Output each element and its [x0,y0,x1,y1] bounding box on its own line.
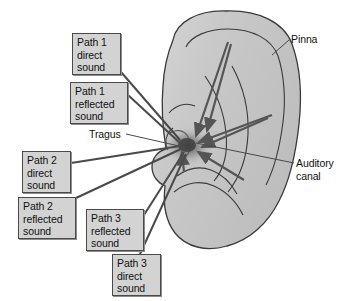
label-tragus: Tragus [89,128,121,141]
label-path-3-reflected[interactable]: Path 3 reflected sound [86,209,144,251]
figure-canvas: Path 1 direct sound Path 1 reflected sou… [0,0,343,301]
label-path-2-direct[interactable]: Path 2 direct sound [22,151,71,193]
label-path-3-direct[interactable]: Path 3 direct sound [112,254,161,296]
label-path-1-direct[interactable]: Path 1 direct sound [72,33,121,75]
label-pinna: Pinna [291,33,317,46]
label-auditory-canal: Auditory canal [296,157,334,182]
label-path-1-reflected[interactable]: Path 1 reflected sound [70,82,128,124]
label-path-2-reflected[interactable]: Path 2 reflected sound [18,197,76,239]
